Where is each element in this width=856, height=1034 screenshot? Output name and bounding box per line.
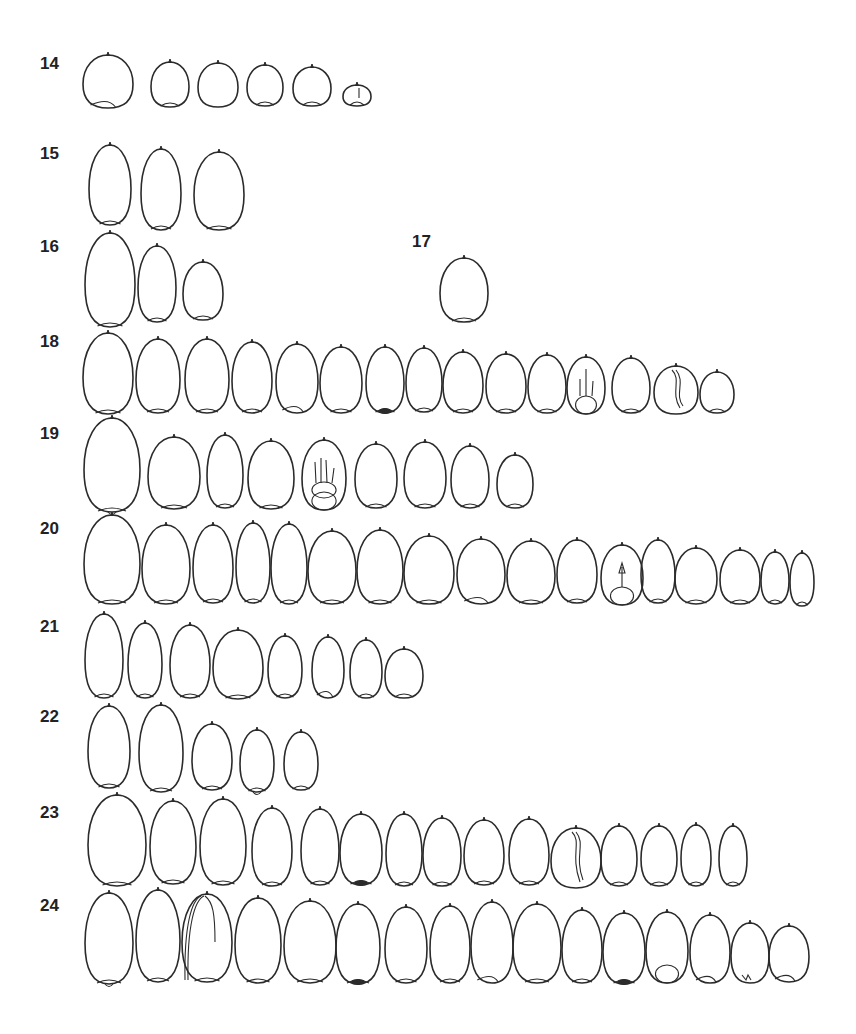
seed-body bbox=[213, 630, 263, 699]
seed-apex-icon bbox=[103, 611, 106, 615]
seed-apex-icon bbox=[657, 537, 660, 541]
seed-outline-icon bbox=[84, 415, 140, 515]
seed-apex-icon bbox=[658, 823, 661, 827]
seed-outline-icon bbox=[675, 545, 717, 604]
seed-apex-icon bbox=[483, 817, 486, 821]
seed-apex-icon bbox=[169, 59, 172, 63]
seed-outline-icon bbox=[423, 815, 461, 886]
seed-outline-icon bbox=[443, 349, 483, 413]
seed-outline-icon bbox=[440, 255, 488, 322]
seed-body bbox=[193, 525, 233, 603]
seed-apex-icon bbox=[327, 634, 330, 638]
seed-apex-icon bbox=[116, 792, 119, 796]
seed-apex-icon bbox=[109, 230, 112, 234]
seed-body bbox=[128, 623, 162, 698]
seed-outline-icon bbox=[284, 898, 336, 983]
seed-body bbox=[451, 446, 489, 508]
seed-apex-icon bbox=[575, 825, 578, 829]
hilum-dark-icon bbox=[618, 980, 631, 985]
seed-body bbox=[136, 890, 180, 982]
seed-apex-icon bbox=[801, 550, 804, 554]
seed-body bbox=[284, 732, 318, 790]
seed-body bbox=[148, 437, 200, 509]
seed-body bbox=[641, 826, 677, 886]
seed-outline-icon bbox=[451, 443, 489, 508]
seed-body bbox=[240, 730, 274, 792]
seed-apex-icon bbox=[505, 351, 508, 355]
seed-outline-icon bbox=[464, 817, 504, 885]
seed-row-21 bbox=[85, 611, 423, 699]
seed-apex-icon bbox=[144, 620, 147, 624]
seed-outline-icon bbox=[641, 823, 677, 886]
seed-apex-icon bbox=[403, 646, 406, 650]
seed-outline-icon bbox=[247, 62, 283, 106]
seed-body bbox=[284, 901, 336, 983]
seed-apex-icon bbox=[514, 452, 517, 456]
seed-body bbox=[385, 649, 423, 698]
seed-body bbox=[320, 347, 362, 413]
seed-outline-icon bbox=[457, 536, 505, 604]
seed-body bbox=[268, 636, 302, 698]
seed-outline-icon bbox=[366, 344, 404, 414]
seed-outline-icon bbox=[213, 627, 263, 699]
seed-outline-icon bbox=[207, 432, 243, 508]
seed-body bbox=[423, 818, 461, 886]
seed-outline-icon bbox=[83, 52, 133, 108]
seed-row-14 bbox=[83, 52, 371, 108]
seed-apex-icon bbox=[749, 920, 752, 924]
seed-apex-icon bbox=[107, 330, 110, 334]
seed-outline-icon bbox=[790, 550, 814, 606]
seed-apex-icon bbox=[257, 895, 260, 899]
seed-apex-icon bbox=[296, 341, 299, 345]
seed-outline-icon bbox=[507, 538, 555, 604]
seed-body bbox=[700, 372, 734, 413]
seed-outline-icon bbox=[567, 354, 605, 414]
seed-apex-icon bbox=[109, 142, 112, 146]
seed-apex-icon bbox=[202, 259, 205, 263]
seed-outline-icon bbox=[139, 702, 183, 792]
seed-apex-icon bbox=[462, 349, 465, 353]
seed-apex-icon bbox=[405, 904, 408, 908]
seed-outline-icon bbox=[138, 243, 176, 322]
seed-body bbox=[247, 65, 283, 106]
seed-body bbox=[151, 62, 189, 107]
seed-outline-icon bbox=[336, 901, 380, 985]
seed-outline-icon bbox=[509, 816, 549, 885]
seed-body bbox=[271, 524, 307, 604]
seed-outline-icon bbox=[385, 904, 427, 983]
seed-body bbox=[198, 63, 238, 107]
embryo-icon bbox=[312, 482, 336, 498]
seed-body bbox=[761, 552, 789, 604]
seed-body bbox=[486, 354, 526, 413]
seed-outline-icon bbox=[85, 890, 133, 987]
seed-apex-icon bbox=[160, 702, 163, 706]
seed-outline-icon bbox=[312, 634, 344, 698]
seed-apex-icon bbox=[581, 907, 584, 911]
seed-outline-icon bbox=[497, 452, 533, 508]
seed-apex-icon bbox=[270, 438, 273, 442]
seed-outline-icon bbox=[404, 439, 446, 508]
seed-apex-icon bbox=[206, 891, 209, 895]
seed-row-15 bbox=[89, 142, 244, 230]
seed-apex-icon bbox=[630, 355, 633, 359]
seed-body bbox=[350, 640, 382, 698]
seed-body bbox=[85, 614, 123, 698]
seed-body bbox=[562, 910, 602, 983]
seed-body bbox=[471, 902, 513, 983]
seed-body bbox=[601, 826, 637, 886]
seed-apex-icon bbox=[623, 910, 626, 914]
seed-body bbox=[194, 152, 244, 230]
seed-apex-icon bbox=[264, 62, 267, 66]
seed-apex-icon bbox=[157, 336, 160, 340]
seed-apex-icon bbox=[384, 344, 387, 348]
seed-apex-icon bbox=[491, 899, 494, 903]
wrinkle-icon bbox=[572, 832, 583, 882]
seed-body bbox=[141, 149, 181, 230]
seed-outline-icon bbox=[193, 522, 233, 603]
seed-body bbox=[276, 344, 318, 413]
seed-outline-icon bbox=[136, 336, 180, 413]
seed-apex-icon bbox=[319, 806, 322, 810]
wrinkle-icon bbox=[672, 370, 683, 408]
seed-apex-icon bbox=[107, 52, 110, 56]
seed-figure-plate: 14 15 16 17 18 19 20 21 22 23 24 bbox=[0, 0, 856, 1034]
